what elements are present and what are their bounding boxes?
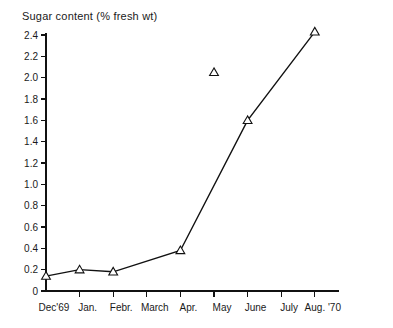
data-point-marker [75,265,84,273]
y-axis-tick-label: 0.2 [24,264,38,275]
y-axis-tick-label: 2.0 [24,72,38,83]
y-axis-tick-label: 1.6 [24,115,38,126]
x-axis-tick-label: Dec'69 [39,302,70,313]
series-line [46,32,315,276]
x-axis-tick-label: Apr. [180,302,198,313]
y-axis-tick-label: 0.8 [24,200,38,211]
y-axis-tick-label: 1.8 [24,94,38,105]
x-axis-tick-label: June [245,302,267,313]
data-series [42,27,320,279]
x-axis-tick-label: Jan. [78,302,97,313]
y-axis: 2.42.22.01.81.61.41.21.00.80.60.40.20 [24,30,46,297]
y-axis-tick-label: 0.6 [24,222,38,233]
x-axis-tick-label: March [141,302,169,313]
data-point-marker [210,68,219,76]
y-axis-tick-label: 1.4 [24,136,38,147]
y-axis-tick-label: 2.2 [24,51,38,62]
y-axis-tick-label: 1.0 [24,179,38,190]
sugar-content-line-chart: Sugar content (% fresh wt) 2.42.22.01.81… [0,0,393,328]
x-axis-tick-label: Aug. '70 [305,302,342,313]
x-axis-tick-label: Febr. [110,302,133,313]
x-axis-tick-label: July [280,302,298,313]
x-axis: Dec'69Jan.Febr.MarchApr.MayJuneJulyAug. … [39,291,342,313]
data-point-marker [310,27,319,35]
x-axis-tick-label: May [213,302,232,313]
y-axis-tick-label: 0 [32,286,38,297]
data-point-marker [176,246,185,254]
plot-area: 2.42.22.01.81.61.41.21.00.80.60.40.20 De… [0,0,393,328]
y-axis-tick-label: 2.4 [24,30,38,41]
y-axis-tick-label: 1.2 [24,158,38,169]
y-axis-tick-label: 0.4 [24,243,38,254]
